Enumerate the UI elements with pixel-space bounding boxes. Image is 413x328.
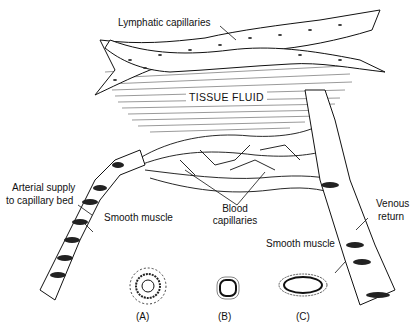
label-capillaries: capillaries <box>205 215 265 227</box>
label-blood: Blood <box>205 203 265 215</box>
label-smooth-muscle-right: Smooth muscle <box>266 238 335 250</box>
label-smooth-muscle-left: Smooth muscle <box>104 212 173 224</box>
label-cross-section-c: (C) <box>296 311 310 323</box>
label-cross-section-a: (A) <box>136 311 149 323</box>
label-arterial-supply-2: to capillary bed <box>6 195 73 207</box>
label-tissue-fluid: TISSUE FLUID <box>186 91 267 103</box>
label-return: return <box>378 211 404 223</box>
label-cross-section-b: (B) <box>218 311 231 323</box>
cross-section-a <box>130 268 166 304</box>
cross-section-c <box>279 274 327 296</box>
cross-section-b <box>217 277 239 299</box>
label-lymphatic-capillaries: Lymphatic capillaries <box>118 17 210 29</box>
diagram-artwork <box>0 0 413 328</box>
label-venous: Venous <box>376 198 409 210</box>
label-arterial-supply-1: Arterial supply <box>12 182 75 194</box>
blood-capillary-network <box>140 122 338 195</box>
